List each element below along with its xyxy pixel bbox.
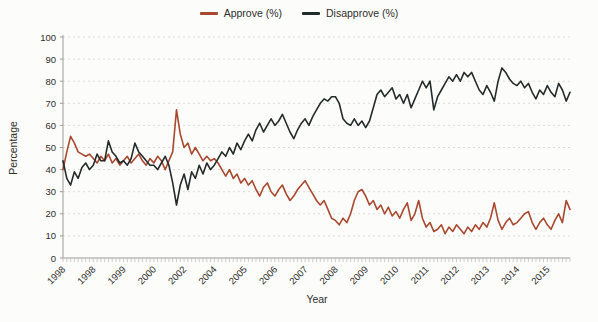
x-tick-label: 2013 [468, 264, 491, 287]
x-tick-label: 2000 [135, 264, 158, 287]
x-tick-label: 2014 [499, 264, 522, 287]
x-tick-label: 1998 [75, 264, 98, 287]
x-tick-label: 2010 [378, 264, 401, 287]
x-tick-label: 2005 [226, 264, 249, 287]
y-tick-label: 100 [40, 32, 56, 43]
x-tick-label: 2007 [287, 264, 310, 287]
y-tick-label: 0 [51, 253, 56, 264]
x-axis-title: Year [306, 293, 327, 305]
x-tick-label: 1998 [45, 264, 68, 287]
y-tick-label: 30 [45, 186, 56, 197]
y-tick-label: 40 [45, 164, 56, 175]
y-tick-label: 20 [45, 208, 56, 219]
y-tick-label: 70 [45, 98, 56, 109]
y-tick-label: 90 [45, 54, 56, 65]
x-tick-label: 2009 [347, 264, 370, 287]
x-tick-label: 2002 [166, 264, 189, 287]
x-tick-label: 2006 [257, 264, 280, 287]
y-axis-title: Percentage [7, 121, 19, 175]
y-tick-label: 60 [45, 120, 56, 131]
approve-line [63, 110, 570, 234]
x-tick-label: 2015 [529, 264, 552, 287]
x-tick-label: 2008 [317, 264, 340, 287]
y-tick-label: 80 [45, 76, 56, 87]
disapprove-line [63, 68, 570, 205]
chart-figure: Approve (%) Disapprove (%) 0102030405060… [0, 0, 598, 322]
x-tick-label: 2011 [408, 264, 430, 286]
y-tick-label: 50 [45, 142, 56, 153]
x-tick-label: 1999 [105, 264, 128, 287]
line-chart-canvas: 0102030405060708090100199819981999200020… [0, 0, 598, 322]
y-tick-label: 10 [45, 230, 56, 241]
x-tick-label: 2004 [196, 264, 219, 287]
x-tick-label: 2012 [438, 264, 461, 287]
